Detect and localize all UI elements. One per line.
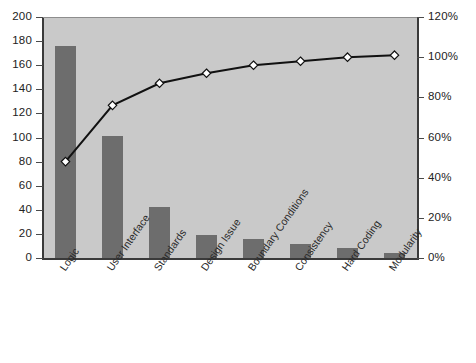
left-tick-mark (36, 65, 43, 66)
left-tick-mark (36, 162, 43, 163)
left-tick-mark (36, 186, 43, 187)
left-tick-label: 20 (0, 227, 32, 239)
right-tick-label: 60% (428, 131, 452, 143)
left-tick-label: 40 (0, 203, 32, 215)
left-tick-label: 120 (0, 106, 32, 118)
left-tick-label: 0 (0, 251, 32, 263)
left-tick-label: 60 (0, 179, 32, 191)
right-tick-label: 20% (428, 211, 452, 223)
left-tick-mark (36, 210, 43, 211)
left-tick-mark (36, 138, 43, 139)
right-tick-label: 120% (428, 10, 458, 22)
right-tick-mark (417, 258, 424, 259)
left-tick-label: 100 (0, 131, 32, 143)
pareto-chart: 020406080100120140160180200 0%20%40%60%8… (0, 0, 476, 363)
left-tick-mark (36, 258, 43, 259)
left-tick-label: 140 (0, 82, 32, 94)
bar (55, 46, 77, 258)
right-tick-mark (417, 138, 424, 139)
left-tick-label: 200 (0, 10, 32, 22)
left-tick-mark (36, 17, 43, 18)
left-tick-label: 160 (0, 58, 32, 70)
bottom-axis-line (42, 258, 419, 260)
left-tick-mark (36, 113, 43, 114)
right-tick-mark (417, 218, 424, 219)
left-tick-mark (36, 89, 43, 90)
bar (102, 136, 124, 258)
right-tick-mark (417, 178, 424, 179)
right-tick-mark (417, 57, 424, 58)
right-tick-mark (417, 17, 424, 18)
right-tick-label: 80% (428, 90, 452, 102)
left-tick-mark (36, 41, 43, 42)
top-axis-line (42, 17, 419, 18)
left-tick-mark (36, 234, 43, 235)
left-tick-label: 80 (0, 155, 32, 167)
left-tick-label: 180 (0, 34, 32, 46)
right-tick-label: 100% (428, 50, 458, 62)
right-tick-mark (417, 97, 424, 98)
right-tick-label: 0% (428, 251, 445, 263)
right-tick-label: 40% (428, 171, 452, 183)
